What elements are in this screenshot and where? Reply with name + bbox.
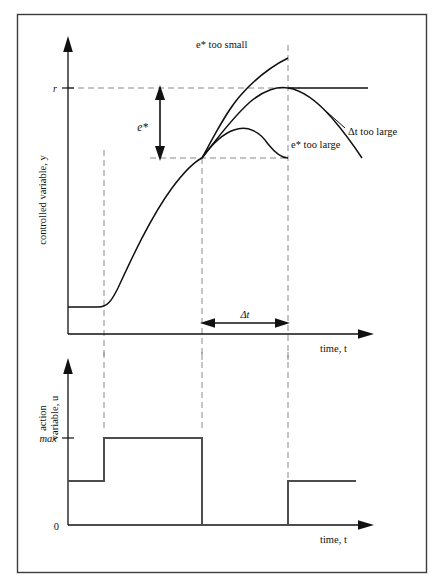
upper-x-axis-label: time, t xyxy=(320,343,347,354)
setpoint-tick-label: r xyxy=(53,83,57,94)
max-tick-label: max xyxy=(40,433,58,444)
zero-tick-label: 0 xyxy=(54,521,59,532)
lower-x-axis-label: time, t xyxy=(320,534,347,545)
figure-container: r e* Δt e* too small Δt too large e* too… xyxy=(0,0,444,588)
annotation-delta-t-too-large: Δt too large xyxy=(348,126,397,137)
e-star-bracket-label: e* xyxy=(137,121,148,133)
figure-border xyxy=(18,15,427,573)
upper-y-axis-label: controlled variable, y xyxy=(37,155,48,245)
delta-t-bracket-label: Δt xyxy=(239,309,250,320)
lower-y-axis-label-line1: action xyxy=(37,404,48,430)
annotation-e-star-too-small: e* too small xyxy=(196,39,247,50)
control-system-response-diagram: r e* Δt e* too small Δt too large e* too… xyxy=(0,0,444,588)
annotation-e-star-too-large: e* too large xyxy=(291,139,341,150)
